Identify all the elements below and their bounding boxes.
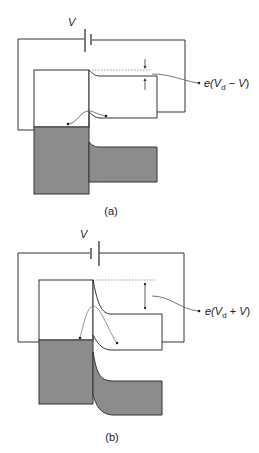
n-side-box-a <box>89 70 157 118</box>
p-side-filled-band-b <box>39 340 93 404</box>
leader-line-b <box>152 296 198 311</box>
annotation-b: e(Vd + V) <box>205 305 250 320</box>
n-side-filled-band-a <box>89 142 157 182</box>
electron-a <box>105 115 108 118</box>
annotation-a: e(Vd − V) <box>204 77 249 92</box>
leader-line-a <box>152 74 198 83</box>
p-side-box-a <box>34 70 89 127</box>
battery-label-b: V <box>80 228 89 240</box>
panel-a: V e(Vd − V) (a) <box>18 16 249 217</box>
caption-a: (a) <box>104 205 117 217</box>
panel-b: V e(Vd + V) (b) <box>18 228 250 443</box>
pn-junction-diagram: V e(Vd − V) (a) V <box>0 0 259 453</box>
n-side-filled-band-b <box>93 352 162 415</box>
caption-b: (b) <box>105 431 118 443</box>
electron-b <box>79 337 82 340</box>
p-side-filled-band-a <box>34 127 89 194</box>
n-side-box-b <box>93 280 162 350</box>
p-side-box-b <box>39 280 93 340</box>
arrow-down-icon <box>144 66 147 69</box>
battery-label-a: V <box>68 16 77 28</box>
